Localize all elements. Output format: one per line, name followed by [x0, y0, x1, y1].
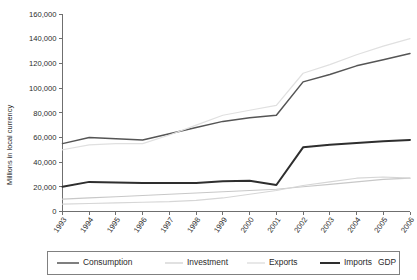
- x-tick-label: 1993: [52, 215, 69, 234]
- series-line-imports: [63, 140, 411, 187]
- x-tick-label: 1994: [78, 215, 95, 234]
- x-tick-label: 2000: [239, 215, 256, 234]
- legend-label-imports[interactable]: Imports: [344, 257, 372, 267]
- y-tick-label: 140,000: [29, 34, 56, 43]
- x-tick-label: 1995: [105, 215, 122, 234]
- y-tick-label: 160,000: [29, 10, 56, 19]
- y-tick-label: 40,000: [33, 158, 56, 167]
- legend-label-exports[interactable]: Exports: [269, 257, 297, 267]
- x-tick-label: 2001: [265, 215, 282, 234]
- x-tick-label: 2002: [292, 215, 309, 234]
- chart-container: Millions in local currency 020,00040,000…: [0, 0, 417, 280]
- y-tick-label: 80,000: [33, 109, 56, 118]
- series-lines: [63, 39, 411, 204]
- legend-label-investment[interactable]: Investment: [187, 257, 229, 267]
- y-tick-label: 60,000: [33, 133, 56, 142]
- x-tick-label: 2004: [346, 215, 363, 234]
- y-axis-title: Millions in local currency: [5, 105, 14, 185]
- y-axis: 020,00040,00060,00080,000100,000120,0001…: [29, 10, 62, 217]
- y-tick-label: 0: [52, 207, 56, 216]
- series-line-gdp: [63, 39, 411, 150]
- x-tick-label: 1998: [185, 215, 202, 234]
- x-axis: 1993199419951996199719981999200020012002…: [52, 212, 417, 235]
- legend: ConsumptionInvestmentExportsImportsGDP: [48, 252, 400, 275]
- y-axis-title-text: Millions in local currency: [5, 105, 14, 185]
- y-tick-label: 20,000: [33, 183, 56, 192]
- y-tick-label: 100,000: [29, 84, 56, 93]
- legend-label-consumption[interactable]: Consumption: [83, 257, 133, 267]
- x-tick-label: 2005: [372, 215, 389, 234]
- legend-label-gdp[interactable]: GDP: [378, 257, 397, 267]
- line-chart: Millions in local currency 020,00040,000…: [0, 0, 417, 280]
- y-tick-label: 120,000: [29, 59, 56, 68]
- x-tick-label: 1997: [158, 215, 175, 234]
- x-tick-label: 1999: [212, 215, 229, 234]
- series-line-consumption: [63, 54, 411, 144]
- x-tick-label: 2003: [319, 215, 336, 234]
- x-tick-label: 1996: [132, 215, 149, 234]
- x-tick-label: 2006: [399, 215, 416, 234]
